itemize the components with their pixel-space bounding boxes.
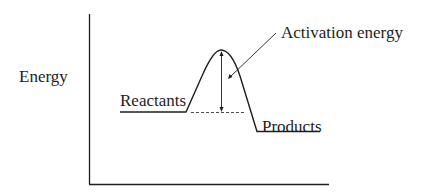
activation-pointer-line — [230, 33, 276, 77]
activation-energy-label: Activation energy — [281, 24, 403, 41]
reactants-label: Reactants — [120, 92, 186, 109]
energy-diagram: Energy Reactants Products Activation ene… — [0, 0, 424, 194]
y-axis-label: Energy — [19, 68, 68, 85]
arrowhead-down-icon — [220, 107, 224, 112]
arrowhead-up-icon — [220, 51, 224, 56]
products-label: Products — [262, 118, 322, 135]
